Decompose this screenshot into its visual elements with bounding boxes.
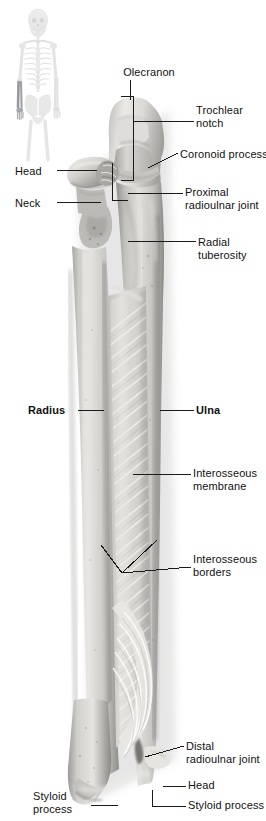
label-distal-radioulnar-joint: Distal radioulnar joint bbox=[186, 740, 266, 765]
label-proximal-radioulnar-joint: Proximal radioulnar joint bbox=[185, 186, 266, 211]
label-interosseous-borders: Interosseous borders bbox=[193, 553, 266, 578]
label-radial-tuberosity: Radial tuberosity bbox=[198, 236, 266, 261]
label-trochlear-notch: Trochlear notch bbox=[196, 104, 266, 129]
label-head-proximal: Head bbox=[15, 165, 57, 178]
anatomy-figure: Olecranon Trochlear notch Coronoid proce… bbox=[0, 0, 266, 821]
skeleton-inset-highlight bbox=[16, 82, 23, 120]
label-interosseous-membrane: Interosseous membrane bbox=[193, 467, 266, 492]
label-olecranon: Olecranon bbox=[113, 66, 185, 79]
label-ulna: Ulna bbox=[196, 404, 240, 417]
label-styloid-process-ulna: Styloid process bbox=[188, 799, 266, 812]
label-radius: Radius bbox=[28, 404, 78, 417]
label-neck: Neck bbox=[15, 197, 57, 210]
label-styloid-process-radius: Styloid process bbox=[33, 790, 91, 815]
label-head-distal: Head bbox=[188, 779, 234, 792]
skeleton-inset bbox=[16, 9, 60, 160]
label-coronoid-process: Coronoid process bbox=[180, 148, 266, 161]
leader-styloid-process-ulna bbox=[152, 790, 186, 806]
